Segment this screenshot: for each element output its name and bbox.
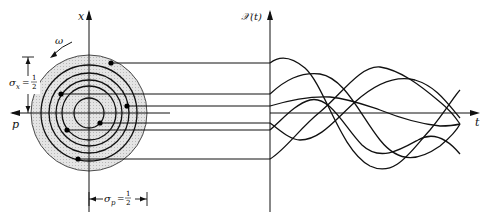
sigma-x-subscript: x bbox=[16, 83, 20, 91]
xt-axis-label: 𝒳(t) bbox=[241, 11, 262, 22]
sigma-x-equals: = bbox=[22, 78, 30, 88]
right-axes bbox=[270, 12, 476, 212]
sigma-p-half-den: 2 bbox=[126, 199, 130, 207]
sigma-p-arrow-left-icon bbox=[90, 197, 96, 202]
x-axis-arrow-icon bbox=[86, 10, 92, 20]
sigma-x-half-den: 2 bbox=[32, 83, 36, 91]
p-axis-arrow-icon bbox=[10, 110, 20, 116]
sigma-p-equals: = bbox=[117, 194, 125, 204]
p-axis-label: p bbox=[12, 118, 19, 131]
sigma-p-half-num: 1 bbox=[126, 190, 130, 198]
xt-axis-arrow-icon bbox=[267, 10, 273, 20]
t-axis-label: t bbox=[475, 116, 480, 129]
trajectories bbox=[270, 58, 460, 169]
sigma-x-arrow-up-icon bbox=[26, 58, 31, 64]
omega-label: ω bbox=[55, 35, 63, 46]
sigma-x-half-num: 1 bbox=[32, 74, 36, 82]
sigma-p-subscript: p bbox=[111, 199, 116, 207]
phase-space-diagram: x p ω σ x = 1 2 σ p = 1 2 bbox=[0, 0, 492, 222]
x-axis-label: x bbox=[78, 10, 85, 23]
sigma-p-arrow-right-icon bbox=[140, 197, 146, 202]
sigma-x-arrow-down-icon bbox=[26, 106, 31, 112]
